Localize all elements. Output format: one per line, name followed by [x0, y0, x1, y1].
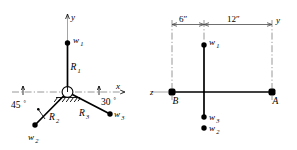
right-view-dimension-6in-label: 6″ [179, 14, 188, 24]
engineering-figure: y x w 1 R 1 R 2 R 3 [0, 0, 297, 150]
svg-text:w: w [209, 112, 215, 122]
svg-text:3: 3 [85, 113, 89, 120]
right-view-support-label-A: A [272, 96, 279, 106]
left-view-label-w2: w 2 [28, 132, 39, 144]
left-view-load-node-w3 [107, 111, 112, 116]
figure-root: y x w 1 R 1 R 2 R 3 [0, 0, 297, 150]
left-view-load-node-w2 [32, 122, 37, 127]
svg-text:1: 1 [216, 42, 219, 49]
svg-text:2: 2 [216, 128, 220, 135]
right-view-load-node-w3 [201, 114, 206, 119]
svg-text:1: 1 [77, 67, 80, 74]
right-view-z-axis-label: z [149, 87, 154, 97]
left-view-angle-30-tick [97, 86, 100, 95]
right-view-dimension-12in-label: 12″ [227, 14, 240, 24]
svg-text:w: w [209, 37, 215, 47]
right-view-support-pad-B [169, 89, 176, 96]
svg-text:2: 2 [35, 137, 39, 144]
right-view-group: 6″ 12″ z [149, 14, 280, 135]
left-view-angle-45-leader-dot [37, 108, 40, 111]
left-view-label-w1: w 1 [73, 35, 83, 47]
right-view-load-node-w2 [201, 125, 206, 130]
svg-text:w: w [28, 132, 34, 142]
left-view-label-w3: w 3 [114, 109, 124, 121]
svg-text:45: 45 [11, 100, 21, 110]
left-view-group: y x w 1 R 1 R 2 R 3 [11, 12, 125, 144]
left-view-angle-45-tick [21, 86, 24, 95]
left-view-load-node-w1 [65, 40, 70, 45]
svg-text:R: R [48, 112, 55, 122]
left-view-y-axis-label: y [70, 12, 75, 22]
svg-text:3: 3 [120, 114, 124, 121]
right-view-y-axis-label: y [275, 15, 280, 25]
left-view-angle-45-label: 45 ° [11, 100, 27, 111]
right-view-label-w1: w 1 [209, 37, 219, 49]
svg-text:°: ° [114, 97, 117, 103]
svg-text:°: ° [24, 100, 27, 106]
right-view-support-label-B: B [173, 96, 179, 106]
svg-text:2: 2 [56, 117, 60, 124]
svg-text:30: 30 [101, 97, 111, 107]
right-view-dimension-6in: 6″ [172, 14, 204, 26]
left-view-angle-30-label: 30 ° [101, 97, 117, 108]
right-view-dimension-12in: 12″ [204, 14, 272, 26]
svg-text:R: R [70, 62, 77, 72]
svg-text:w: w [209, 123, 215, 133]
right-view-support-pad-A [269, 89, 276, 96]
svg-text:3: 3 [215, 117, 219, 124]
left-view-label-R2: R 2 [48, 112, 60, 124]
right-view-label-w2: w 2 [209, 123, 220, 135]
left-view-label-R3: R 3 [78, 108, 89, 120]
svg-text:w: w [73, 35, 79, 45]
svg-text:R: R [78, 108, 85, 118]
svg-text:w: w [114, 109, 120, 119]
left-view-label-R1: R 1 [70, 62, 81, 74]
left-view-x-axis-label: x [115, 81, 120, 91]
right-view-load-node-w1 [201, 42, 206, 47]
left-view-support-hatching [54, 98, 80, 103]
svg-text:1: 1 [80, 40, 83, 47]
